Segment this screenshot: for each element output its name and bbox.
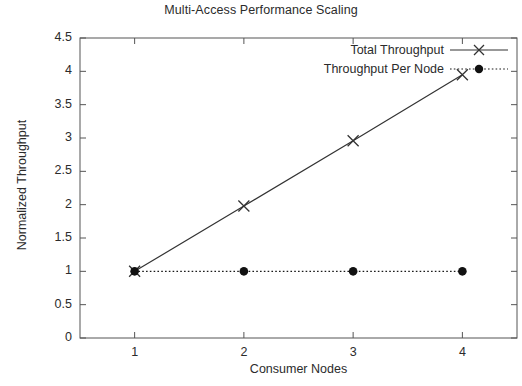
data-series-group [129,69,468,277]
y-tick-label: 0 [26,331,72,344]
chart-legend: Total Throughput Throughput Per Node [300,40,508,78]
y-tick-label: 1.5 [26,231,72,244]
y-tick-label: 3.5 [26,98,72,111]
y-tick-label: 4 [26,64,72,77]
y-tick-label: 2.5 [26,164,72,177]
legend-label-total-throughput: Total Throughput [350,43,450,57]
axes-frame [80,38,517,338]
y-tick-label: 3 [26,131,72,144]
legend-item-throughput-per-node: Throughput Per Node [300,59,508,78]
y-tick-label: 4.5 [26,31,72,44]
x-tick-label: 3 [333,345,373,359]
x-tick-label: 1 [115,345,155,359]
x-tick-label: 2 [224,345,264,359]
axis-ticks [80,38,517,338]
y-tick-label: 1 [26,264,72,277]
y-tick-label: 2 [26,198,72,211]
legend-marker-filled-circle-icon [450,61,508,77]
x-tick-label: 4 [442,345,482,359]
y-tick-label: 0.5 [26,298,72,311]
legend-label-throughput-per-node: Throughput Per Node [324,62,450,76]
chart-container: Multi-Access Performance Scaling Normali… [0,0,522,386]
legend-marker-x-cross-icon [450,42,508,58]
legend-item-total-throughput: Total Throughput [300,40,508,59]
